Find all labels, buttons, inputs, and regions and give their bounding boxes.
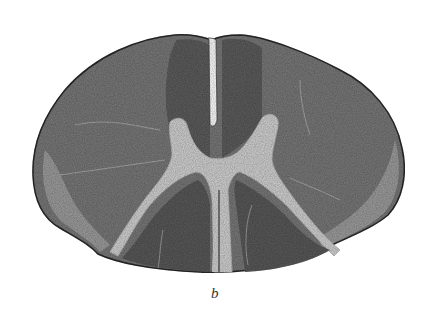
figure-label: b [211, 285, 219, 302]
figure-illustration [0, 0, 425, 317]
spinal-cord-cross-section [0, 0, 425, 317]
